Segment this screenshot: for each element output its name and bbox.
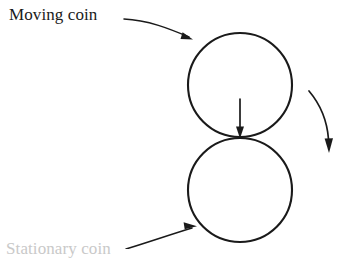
stationary-coin-circle	[188, 138, 292, 242]
stationary-coin-leader-line	[126, 228, 192, 249]
moving-coin-leader-arrowhead	[181, 32, 194, 39]
rotation-arrow-shaft	[309, 91, 329, 139]
moving-coin-label: Moving coin	[9, 6, 97, 24]
stationary-coin-label: Stationary coin	[6, 240, 111, 258]
moving-coin-leader-line	[124, 19, 189, 37]
rotation-arrow-arrowhead	[325, 138, 333, 153]
